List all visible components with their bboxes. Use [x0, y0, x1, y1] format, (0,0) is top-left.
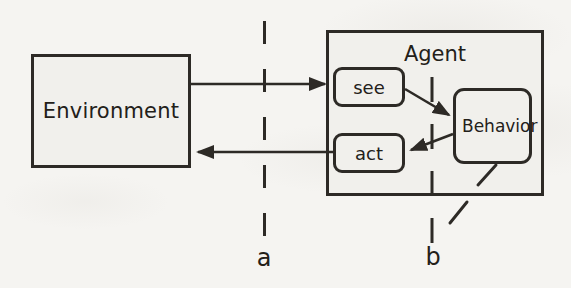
agent-label: Agent [329, 42, 541, 66]
boundary-label-a: a [257, 244, 272, 272]
see-label: see [353, 77, 385, 98]
see-box: see [333, 67, 405, 107]
boundary-label-b: b [425, 243, 440, 271]
act-label: act [355, 143, 383, 164]
behavior-box: Behavior [453, 88, 532, 164]
diagram-canvas: Environment Agent see act Behavior [0, 0, 571, 288]
environment-label: Environment [43, 99, 179, 123]
environment-box: Environment [31, 54, 191, 168]
callout-slash-lower [450, 202, 467, 223]
behavior-label: Behavior [456, 116, 538, 136]
act-box: act [333, 133, 405, 173]
